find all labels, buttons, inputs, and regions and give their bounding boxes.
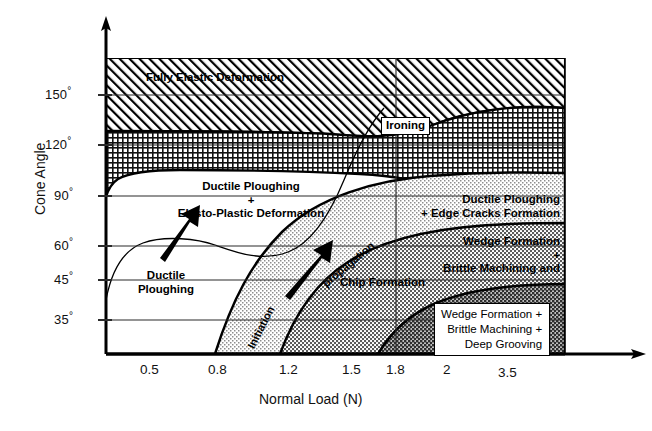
label-ductile-ploughing: Ductile Ploughing bbox=[119, 269, 213, 296]
label-wedge-line4: Chip Formation bbox=[340, 276, 560, 290]
label-wedge-brittle: Wedge Formation + Brittle Machining and … bbox=[400, 235, 560, 289]
label-deep-line2: Brittle Machining + bbox=[441, 322, 542, 337]
label-wedge-line3: Brittle Machining and bbox=[400, 262, 560, 276]
y-tick-label-60: 60° bbox=[54, 236, 73, 253]
x-tick-label-1p8: 1.8 bbox=[386, 362, 405, 377]
label-edge-cracks-line2: + Edge Cracks Formation bbox=[420, 207, 560, 221]
y-tick-label-120: 120° bbox=[45, 135, 72, 152]
label-deep-line1: Wedge Formation + bbox=[441, 307, 542, 322]
y-tick-label-35: 35° bbox=[54, 310, 73, 327]
x-tick-label-0p8: 0.8 bbox=[208, 362, 227, 377]
label-ductile-ploughing-elasto-plastic: Ductile Ploughing + Elasto-Plastic Defor… bbox=[148, 180, 354, 221]
label-wedge-line1: Wedge Formation bbox=[400, 235, 560, 249]
y-axis-title: Cone Angle bbox=[32, 143, 48, 215]
label-elasto-plastic-line: Elasto-Plastic Deformation bbox=[148, 207, 354, 221]
x-tick-label-0p5: 0.5 bbox=[140, 362, 159, 377]
x-axis-title: Normal Load (N) bbox=[259, 391, 362, 407]
x-tick-label-2: 2 bbox=[443, 362, 451, 377]
y-tick-label-150: 150° bbox=[45, 85, 72, 102]
x-tick-label-1p2: 1.2 bbox=[279, 362, 298, 377]
label-ductile-line2: Ploughing bbox=[119, 283, 213, 297]
label-wedge-line2: + bbox=[400, 249, 560, 263]
label-ironing: Ironing bbox=[381, 117, 430, 135]
label-deep-line3: Deep Grooving bbox=[441, 337, 542, 352]
label-plus-sign: + bbox=[148, 194, 354, 208]
label-edge-cracks-line1: Ductile Ploughing bbox=[420, 193, 560, 207]
label-edge-cracks: Ductile Ploughing + Edge Cracks Formatio… bbox=[420, 193, 560, 220]
label-ductile-ploughing-line1: Ductile Ploughing bbox=[148, 180, 354, 194]
label-fully-elastic: Fully Elastic Deformation bbox=[146, 71, 284, 85]
label-ductile-line1: Ductile bbox=[119, 269, 213, 283]
deformation-mechanism-map: Cone Angle 150° 120° 90° 60° 45° 35° 0.5… bbox=[0, 0, 652, 431]
x-tick-label-3p5: 3.5 bbox=[498, 365, 517, 380]
x-tick-label-1p5: 1.5 bbox=[342, 362, 361, 377]
y-tick-label-90: 90° bbox=[54, 186, 73, 203]
y-tick-label-45: 45° bbox=[54, 270, 73, 287]
label-deep-grooving: Wedge Formation + Brittle Machining + De… bbox=[434, 303, 550, 356]
